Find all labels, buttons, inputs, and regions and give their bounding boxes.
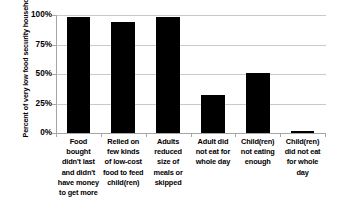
x-axis-label-line: whole day (189, 157, 238, 167)
x-axis-label-line: child(ren) (99, 178, 148, 188)
x-axis-label-line: Child(ren) (278, 137, 327, 147)
x-axis-category-label: Child(ren)not eatingenough (233, 137, 282, 168)
x-axis-category-label: Adultsreducedsize ofmeals orskipped (144, 137, 193, 188)
x-axis-label-line: not eat for (189, 147, 238, 157)
x-axis-label-line: reduced (144, 147, 193, 157)
bar (246, 73, 270, 133)
x-axis-label-line: and didn't (54, 168, 103, 178)
x-axis-label-line: bought (54, 147, 103, 157)
bars-layer (56, 15, 325, 133)
x-axis-label-line: not eating (233, 147, 282, 157)
y-axis-tick-label: 75% (22, 41, 52, 49)
x-axis-label-line: Adult did (189, 137, 238, 147)
x-axis-label-line: Relied on (99, 137, 148, 147)
y-axis-tick-label: 100% (22, 11, 52, 19)
x-axis-label-line: Adults (144, 137, 193, 147)
x-axis-label-line: of low-cost (99, 157, 148, 167)
x-axis-category-label: Foodboughtdidn't lastand didn'thave mone… (54, 137, 103, 198)
x-axis-label-line: enough (233, 157, 282, 167)
x-axis-label-line: Child(ren) (233, 137, 282, 147)
x-axis-label-line: few kinds (99, 147, 148, 157)
y-axis-tickmark (52, 133, 56, 134)
bar (201, 95, 225, 133)
x-axis-category-label: Relied onfew kindsof low-costfood to fee… (99, 137, 148, 188)
x-axis-label-line: meals or (144, 168, 193, 178)
x-axis-label-line: to get more (54, 188, 103, 198)
x-axis-category-labels: Foodboughtdidn't lastand didn'thave mone… (56, 137, 325, 217)
x-axis-label-line: didn't last (54, 157, 103, 167)
x-axis-label-line: skipped (144, 178, 193, 188)
x-axis-label-line: for whole (278, 157, 327, 167)
bar-chart: Percent of very low food security househ… (0, 0, 337, 220)
y-axis-tick-label: 25% (22, 100, 52, 108)
bar (291, 131, 315, 133)
x-axis-label-line: day (278, 168, 327, 178)
x-axis-category-label: Child(ren)did not eatfor wholeday (278, 137, 327, 178)
x-axis-label-line: food to feed (99, 168, 148, 178)
y-axis-tick-label: 50% (22, 70, 52, 78)
x-axis-label-line: Food (54, 137, 103, 147)
bar (156, 17, 180, 133)
x-axis-category-label: Adult didnot eat forwhole day (189, 137, 238, 168)
x-axis-label-line: size of (144, 157, 193, 167)
bar (67, 17, 91, 133)
x-axis-label-line: have money (54, 178, 103, 188)
y-axis-tick-labels: 100%75%50%25%0% (22, 0, 52, 220)
bar (111, 22, 135, 133)
y-axis-tick-label: 0% (22, 129, 52, 137)
x-axis-line (57, 133, 326, 134)
x-axis-label-line: did not eat (278, 147, 327, 157)
